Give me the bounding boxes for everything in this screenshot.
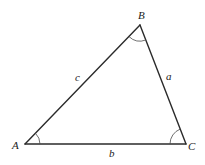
side-a-line xyxy=(140,25,186,144)
side-c-line xyxy=(25,25,140,144)
side-a-label: a xyxy=(166,70,172,82)
triangle-diagram: A B C c a b xyxy=(0,0,205,165)
vertex-b-label: B xyxy=(138,9,145,21)
angle-a-arc xyxy=(35,133,40,144)
vertex-a-label: A xyxy=(11,139,19,151)
angle-b-arc xyxy=(129,37,146,42)
side-b-label: b xyxy=(109,147,115,159)
angle-c-arc xyxy=(170,129,180,144)
side-c-label: c xyxy=(75,71,80,83)
vertex-c-label: C xyxy=(188,140,196,152)
